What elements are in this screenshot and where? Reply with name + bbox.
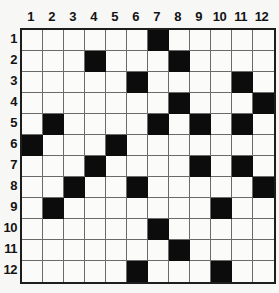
entry-cell-11-6[interactable] bbox=[127, 240, 148, 261]
entry-cell-2-6[interactable] bbox=[127, 51, 148, 72]
entry-cell-3-1[interactable] bbox=[22, 72, 43, 93]
entry-cell-1-2[interactable] bbox=[43, 30, 64, 51]
entry-cell-1-10[interactable] bbox=[211, 30, 232, 51]
entry-cell-10-8[interactable] bbox=[169, 219, 190, 240]
entry-cell-9-3[interactable] bbox=[64, 198, 85, 219]
entry-cell-4-6[interactable] bbox=[127, 93, 148, 114]
entry-cell-6-7[interactable] bbox=[148, 135, 169, 156]
entry-cell-3-3[interactable] bbox=[64, 72, 85, 93]
entry-cell-4-3[interactable] bbox=[64, 93, 85, 114]
entry-cell-5-3[interactable] bbox=[64, 114, 85, 135]
entry-cell-4-2[interactable] bbox=[43, 93, 64, 114]
entry-cell-2-5[interactable] bbox=[106, 51, 127, 72]
entry-cell-5-4[interactable] bbox=[85, 114, 106, 135]
entry-cell-2-1[interactable] bbox=[22, 51, 43, 72]
entry-cell-2-7[interactable] bbox=[148, 51, 169, 72]
entry-cell-8-7[interactable] bbox=[148, 177, 169, 198]
entry-cell-11-2[interactable] bbox=[43, 240, 64, 261]
entry-cell-10-9[interactable] bbox=[190, 219, 211, 240]
entry-cell-9-8[interactable] bbox=[169, 198, 190, 219]
entry-cell-7-12[interactable] bbox=[253, 156, 274, 177]
entry-cell-9-12[interactable] bbox=[253, 198, 274, 219]
entry-cell-2-9[interactable] bbox=[190, 51, 211, 72]
entry-cell-1-1[interactable] bbox=[22, 30, 43, 51]
entry-cell-3-8[interactable] bbox=[169, 72, 190, 93]
entry-cell-12-11[interactable] bbox=[232, 261, 253, 282]
entry-cell-4-9[interactable] bbox=[190, 93, 211, 114]
entry-cell-7-8[interactable] bbox=[169, 156, 190, 177]
entry-cell-10-1[interactable] bbox=[22, 219, 43, 240]
entry-cell-9-1[interactable] bbox=[22, 198, 43, 219]
crossword-grid[interactable] bbox=[20, 28, 276, 284]
entry-cell-1-11[interactable] bbox=[232, 30, 253, 51]
entry-cell-6-2[interactable] bbox=[43, 135, 64, 156]
entry-cell-11-4[interactable] bbox=[85, 240, 106, 261]
entry-cell-1-6[interactable] bbox=[127, 30, 148, 51]
entry-cell-10-5[interactable] bbox=[106, 219, 127, 240]
entry-cell-5-8[interactable] bbox=[169, 114, 190, 135]
entry-cell-10-11[interactable] bbox=[232, 219, 253, 240]
entry-cell-8-5[interactable] bbox=[106, 177, 127, 198]
entry-cell-10-2[interactable] bbox=[43, 219, 64, 240]
entry-cell-6-6[interactable] bbox=[127, 135, 148, 156]
entry-cell-9-6[interactable] bbox=[127, 198, 148, 219]
entry-cell-12-7[interactable] bbox=[148, 261, 169, 282]
entry-cell-8-1[interactable] bbox=[22, 177, 43, 198]
entry-cell-8-10[interactable] bbox=[211, 177, 232, 198]
entry-cell-8-8[interactable] bbox=[169, 177, 190, 198]
entry-cell-3-5[interactable] bbox=[106, 72, 127, 93]
entry-cell-12-2[interactable] bbox=[43, 261, 64, 282]
entry-cell-11-9[interactable] bbox=[190, 240, 211, 261]
entry-cell-1-12[interactable] bbox=[253, 30, 274, 51]
entry-cell-6-4[interactable] bbox=[85, 135, 106, 156]
entry-cell-12-9[interactable] bbox=[190, 261, 211, 282]
entry-cell-5-1[interactable] bbox=[22, 114, 43, 135]
entry-cell-5-12[interactable] bbox=[253, 114, 274, 135]
entry-cell-4-4[interactable] bbox=[85, 93, 106, 114]
entry-cell-12-4[interactable] bbox=[85, 261, 106, 282]
entry-cell-9-7[interactable] bbox=[148, 198, 169, 219]
entry-cell-2-11[interactable] bbox=[232, 51, 253, 72]
entry-cell-11-11[interactable] bbox=[232, 240, 253, 261]
entry-cell-11-1[interactable] bbox=[22, 240, 43, 261]
entry-cell-8-4[interactable] bbox=[85, 177, 106, 198]
entry-cell-3-4[interactable] bbox=[85, 72, 106, 93]
entry-cell-10-12[interactable] bbox=[253, 219, 274, 240]
entry-cell-8-2[interactable] bbox=[43, 177, 64, 198]
entry-cell-12-5[interactable] bbox=[106, 261, 127, 282]
entry-cell-4-10[interactable] bbox=[211, 93, 232, 114]
entry-cell-3-7[interactable] bbox=[148, 72, 169, 93]
entry-cell-10-10[interactable] bbox=[211, 219, 232, 240]
entry-cell-11-3[interactable] bbox=[64, 240, 85, 261]
entry-cell-11-10[interactable] bbox=[211, 240, 232, 261]
entry-cell-7-7[interactable] bbox=[148, 156, 169, 177]
entry-cell-8-9[interactable] bbox=[190, 177, 211, 198]
entry-cell-11-7[interactable] bbox=[148, 240, 169, 261]
entry-cell-7-6[interactable] bbox=[127, 156, 148, 177]
entry-cell-12-8[interactable] bbox=[169, 261, 190, 282]
entry-cell-1-3[interactable] bbox=[64, 30, 85, 51]
entry-cell-2-12[interactable] bbox=[253, 51, 274, 72]
entry-cell-7-2[interactable] bbox=[43, 156, 64, 177]
entry-cell-10-3[interactable] bbox=[64, 219, 85, 240]
entry-cell-2-3[interactable] bbox=[64, 51, 85, 72]
entry-cell-4-11[interactable] bbox=[232, 93, 253, 114]
entry-cell-7-10[interactable] bbox=[211, 156, 232, 177]
entry-cell-12-3[interactable] bbox=[64, 261, 85, 282]
entry-cell-12-12[interactable] bbox=[253, 261, 274, 282]
entry-cell-4-5[interactable] bbox=[106, 93, 127, 114]
entry-cell-9-4[interactable] bbox=[85, 198, 106, 219]
entry-cell-7-1[interactable] bbox=[22, 156, 43, 177]
entry-cell-3-9[interactable] bbox=[190, 72, 211, 93]
entry-cell-9-9[interactable] bbox=[190, 198, 211, 219]
entry-cell-1-9[interactable] bbox=[190, 30, 211, 51]
entry-cell-9-11[interactable] bbox=[232, 198, 253, 219]
entry-cell-12-1[interactable] bbox=[22, 261, 43, 282]
entry-cell-11-5[interactable] bbox=[106, 240, 127, 261]
entry-cell-10-4[interactable] bbox=[85, 219, 106, 240]
entry-cell-2-2[interactable] bbox=[43, 51, 64, 72]
entry-cell-7-3[interactable] bbox=[64, 156, 85, 177]
entry-cell-5-10[interactable] bbox=[211, 114, 232, 135]
entry-cell-10-6[interactable] bbox=[127, 219, 148, 240]
entry-cell-1-8[interactable] bbox=[169, 30, 190, 51]
